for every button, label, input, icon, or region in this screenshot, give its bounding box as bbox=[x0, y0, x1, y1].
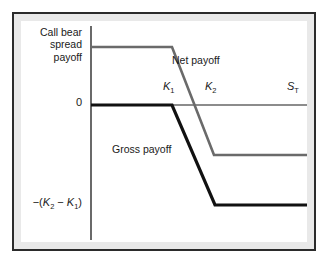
x-tick-k1-sub: 1 bbox=[170, 86, 174, 95]
y-axis-title-line1: Call bear bbox=[20, 26, 82, 38]
y-tick-negative-minus: − bbox=[54, 196, 67, 208]
x-axis-title-sub: T bbox=[294, 86, 299, 95]
net-payoff-annotation: Net payoff bbox=[172, 54, 220, 66]
x-axis-title: ST bbox=[287, 80, 299, 96]
y-tick-zero: 0 bbox=[56, 96, 82, 109]
figure-frame: Call bear spread payoff 0 −(K2 − K1) K1 … bbox=[0, 0, 328, 263]
x-tick-k2-sub: 2 bbox=[212, 86, 216, 95]
y-tick-negative-prefix: −( bbox=[33, 196, 43, 208]
y-axis-title-line2: spread bbox=[20, 38, 82, 50]
y-axis-title: Call bear spread payoff bbox=[20, 26, 82, 63]
x-tick-k1: K1 bbox=[163, 80, 175, 96]
x-tick-k2: K2 bbox=[205, 80, 217, 96]
gross-payoff-annotation: Gross payoff bbox=[112, 143, 171, 155]
y-tick-negative-suffix: ) bbox=[78, 196, 82, 208]
y-axis-title-line3: payoff bbox=[20, 51, 82, 63]
y-tick-negative-spread: −(K2 − K1) bbox=[12, 196, 82, 212]
